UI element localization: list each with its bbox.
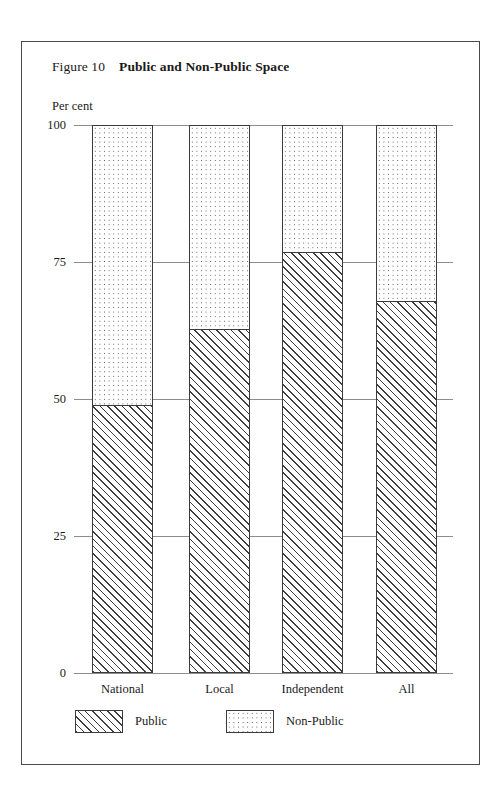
plot-area: 0255075100 NationalLocalIndependentAll xyxy=(22,42,481,766)
y-axis-tick-label-0: 0 xyxy=(26,667,66,680)
y-axis-tick-mark-75 xyxy=(443,262,453,263)
y-axis-tick-mark-50 xyxy=(443,399,453,400)
y-axis-tick-label-75: 75 xyxy=(26,256,66,269)
bar-segment-public-national xyxy=(93,405,152,672)
y-axis-tick-mark-25 xyxy=(443,536,453,537)
bar-segment-non-public-all xyxy=(377,126,436,301)
bar-national xyxy=(92,125,153,673)
bar-all xyxy=(376,125,437,673)
legend-entry-public: Public xyxy=(75,708,167,734)
figure-frame: Figure 10Public and Non-Public Space Per… xyxy=(21,41,480,765)
y-axis-tick-mark-100 xyxy=(443,125,453,126)
y-axis-tick-label-50: 50 xyxy=(26,393,66,406)
legend-swatch-public xyxy=(75,710,123,733)
bar-segment-non-public-independent xyxy=(283,126,342,252)
bar-segment-non-public-national xyxy=(93,126,152,405)
gridline-0 xyxy=(74,673,453,674)
bar-segment-public-independent xyxy=(283,252,342,672)
legend-swatch-non-public xyxy=(226,710,274,733)
y-axis-tick-label-100: 100 xyxy=(26,119,66,132)
chart-legend: PublicNon-Public xyxy=(22,708,481,754)
bar-segment-non-public-local xyxy=(190,126,249,329)
bar-independent xyxy=(282,125,343,673)
y-axis-tick-mark-0 xyxy=(443,673,453,674)
bar-segment-public-all xyxy=(377,301,436,672)
x-axis-label-all: All xyxy=(346,683,467,696)
legend-label-public: Public xyxy=(135,714,167,729)
y-axis-tick-label-25: 25 xyxy=(26,530,66,543)
bar-segment-public-local xyxy=(190,329,249,672)
legend-entry-non-public: Non-Public xyxy=(226,708,344,734)
bar-local xyxy=(189,125,250,673)
legend-label-non-public: Non-Public xyxy=(286,714,344,729)
